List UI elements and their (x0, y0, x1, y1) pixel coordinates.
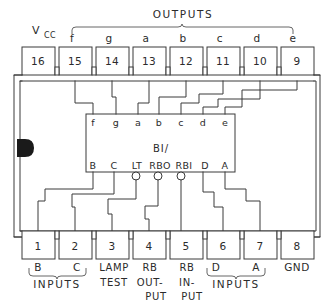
bottom-routing-wires (38, 172, 260, 231)
bottom-signal-A: A (252, 261, 260, 273)
ic-pinout-diagram: OUTPUTS V CC f g a b c d e 16 15 1 (0, 0, 327, 303)
pad-tab-1-2 (55, 231, 59, 239)
pin-number-11: 11 (216, 55, 230, 67)
inner-bottom-labels: B C LT RBO RBI D A (90, 160, 229, 171)
inner-label-A: A (222, 160, 229, 171)
pad-tab-16-15 (55, 67, 59, 75)
top-signal-b: b (179, 32, 186, 44)
pin-number-10: 10 (253, 55, 267, 67)
pin-number-2: 2 (72, 240, 79, 252)
top-routing-wires (75, 81, 297, 114)
inputs-group-right-label: INPUTS (212, 278, 260, 290)
bottom-signal-B: B (34, 261, 42, 273)
inner-label-LT: LT (132, 160, 143, 171)
pin-one-notch-marker (17, 139, 34, 157)
bubble-icon-rbi (177, 172, 185, 180)
bottom-pin-function-labels: TEST OUT- PUT IN- PUT (99, 277, 203, 302)
top-signal-c: c (217, 32, 223, 44)
pin-number-3: 3 (109, 240, 116, 252)
pad-tab-11-10 (240, 67, 244, 75)
top-signal-f: f (70, 32, 74, 44)
top-pin-signal-labels: f g a b c d e (70, 32, 297, 44)
diagram-canvas: OUTPUTS V CC f g a b c d e 16 15 1 (0, 0, 327, 303)
top-pin-pads (22, 47, 314, 75)
pad-tab-14-13 (129, 67, 133, 75)
bottom-signal-C: C (73, 261, 81, 273)
bubble-icon-lt (132, 172, 140, 180)
vcc-label: V CC (32, 24, 56, 40)
bottom-signal-D: D (212, 261, 221, 273)
inner-label-RBI: RBI (175, 160, 192, 171)
outputs-group-label: OUTPUTS (153, 8, 214, 20)
bottom-signal-RB5: RB (179, 262, 194, 273)
pad-tab-13-12 (166, 67, 170, 75)
bottom-signal-RB4: RB (142, 262, 157, 273)
inner-label-C: C (110, 160, 117, 171)
inner-label-a: a (135, 117, 141, 128)
inner-label-b: b (156, 117, 162, 128)
bubble-icon-rbo (154, 172, 162, 180)
inner-label-D: D (201, 160, 209, 171)
pin-number-6: 6 (220, 240, 227, 252)
pin-number-1: 1 (35, 240, 42, 252)
pad-tab-7-8 (277, 231, 281, 239)
function-rb-input: IN- (179, 277, 195, 288)
inner-label-f: f (91, 117, 95, 128)
pin-number-13: 13 (142, 55, 156, 67)
inner-label-c: c (178, 117, 184, 128)
pin-number-4: 4 (146, 240, 153, 252)
top-signal-e: e (290, 32, 297, 44)
top-signal-d: d (253, 32, 260, 44)
inner-label-g: g (113, 117, 119, 128)
pin-number-5: 5 (183, 240, 190, 252)
vcc-label-main: V (32, 24, 40, 37)
bottom-pin-numbers: 1 2 3 4 5 6 7 8 (35, 240, 301, 252)
function-rb-output: OUT- (137, 277, 163, 288)
vcc-label-sub: CC (44, 31, 56, 40)
bottom-pin-signal-labels: B C LAMP RB RB D A GND (34, 261, 310, 273)
function-lamp-test: TEST (99, 277, 128, 288)
function-rb-input-2: PUT (181, 291, 203, 302)
pin-number-8: 8 (294, 240, 301, 252)
inner-label-B: B (90, 160, 97, 171)
pad-tab-2-3 (92, 231, 96, 239)
pad-tab-6-7 (240, 231, 244, 239)
active-low-bubbles (132, 172, 185, 180)
pad-tab-10-9 (277, 67, 281, 75)
bottom-signal-LAMP: LAMP (99, 262, 129, 273)
pin-number-14: 14 (105, 55, 119, 67)
pin-number-15: 15 (68, 55, 82, 67)
pin-number-9: 9 (294, 55, 301, 67)
inner-center-label: BI/ (153, 143, 169, 154)
inner-label-e: e (222, 117, 228, 128)
pad-tab-12-11 (203, 67, 207, 75)
top-signal-g: g (105, 32, 112, 44)
pad-tab-5-6 (203, 231, 207, 239)
bottom-pin-pads (22, 231, 314, 259)
pad-tab-15-14 (92, 67, 96, 75)
inner-label-RBO: RBO (149, 160, 171, 171)
pin-number-7: 7 (257, 240, 264, 252)
pad-tab-3-4 (129, 231, 133, 239)
top-signal-a: a (143, 32, 150, 44)
function-rb-output-2: PUT (145, 291, 167, 302)
pin-number-16: 16 (31, 55, 45, 67)
inner-label-d: d (200, 117, 206, 128)
pad-tab-4-5 (166, 231, 170, 239)
bottom-signal-GND: GND (284, 261, 310, 273)
inputs-group-left-label: INPUTS (33, 278, 81, 290)
pin-number-12: 12 (179, 55, 193, 67)
